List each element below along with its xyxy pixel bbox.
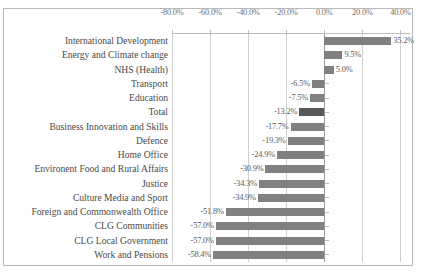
- row-tick-mark: [325, 254, 329, 255]
- bar-row: -17.7%: [172, 120, 410, 134]
- x-tick-label: -40.0%: [237, 8, 260, 17]
- category-label: Justice: [142, 177, 168, 191]
- x-axis-tick-labels: -80.0%-60.0%-40.0%-20.0%0.0%20.0%40.0%: [0, 8, 422, 22]
- category-label: Environent Food and Rural Affairs: [34, 162, 168, 176]
- category-label: NHS (Health): [114, 63, 168, 77]
- category-label: Education: [129, 91, 168, 105]
- row-tick-mark: [325, 212, 329, 213]
- category-axis-labels: International DevelopmentEnergy and Clim…: [0, 34, 168, 262]
- plot-area: 35.2%9.5%5.0%-6.5%-7.5%-13.2%-17.7%-19.3…: [172, 34, 410, 262]
- bar-value-label: -19.3%: [262, 135, 285, 147]
- row-tick-mark: [325, 183, 329, 184]
- bar: [265, 165, 324, 173]
- bar-row: -57.0%: [172, 234, 410, 248]
- x-tick-label: 20.0%: [352, 8, 373, 17]
- bar: [277, 151, 324, 159]
- row-tick-mark: [325, 98, 329, 99]
- row-tick-mark: [325, 197, 329, 198]
- bar-value-label: -7.5%: [289, 92, 308, 104]
- x-tick-label: -80.0%: [160, 8, 183, 17]
- bar: [310, 94, 324, 102]
- bar: [259, 180, 324, 188]
- row-tick-mark: [325, 240, 329, 241]
- category-label: Culture Media and Sport: [73, 191, 168, 205]
- bar-row: -34.3%: [172, 177, 410, 191]
- bar-row: -7.5%: [172, 91, 410, 105]
- category-label: CLG Communities: [95, 219, 168, 233]
- bar-row: -6.5%: [172, 77, 410, 91]
- bar: [216, 222, 325, 230]
- bar: [324, 37, 391, 45]
- x-tick-label: 0.0%: [316, 8, 333, 17]
- bar: [288, 137, 325, 145]
- bar: [226, 208, 325, 216]
- bar-row: -13.2%: [172, 105, 410, 119]
- row-tick-mark: [325, 169, 329, 170]
- category-label: Foreign and Commonwealth Office: [31, 205, 168, 219]
- bar-row: -34.9%: [172, 191, 410, 205]
- bar-value-label: -24.9%: [252, 149, 275, 161]
- bar-row: 9.5%: [172, 48, 410, 62]
- category-label: Defence: [136, 134, 168, 148]
- category-label: Home Office: [118, 148, 168, 162]
- bar: [312, 80, 324, 88]
- row-tick-mark: [325, 140, 329, 141]
- row-tick-mark: [325, 83, 329, 84]
- row-tick-mark: [325, 226, 329, 227]
- bar-row: -30.9%: [172, 162, 410, 176]
- category-label: Business Innovation and Skills: [49, 120, 168, 134]
- bar-value-label: -6.5%: [291, 78, 310, 90]
- bar: [258, 194, 324, 202]
- bar-value-label: -13.2%: [274, 106, 297, 118]
- category-label: Total: [148, 105, 168, 119]
- category-label: CLG Local Government: [74, 234, 168, 248]
- bar: [291, 123, 325, 131]
- row-tick-mark: [325, 155, 329, 156]
- bar-row: -51.8%: [172, 205, 410, 219]
- bar: [213, 251, 324, 259]
- category-label: Energy and Climate change: [62, 48, 168, 62]
- bar-row: -19.3%: [172, 134, 410, 148]
- category-label: Work and Pensions: [94, 248, 168, 262]
- bar: [299, 108, 324, 116]
- bar-value-label: -17.7%: [265, 121, 288, 133]
- bar-value-label: -51.8%: [200, 206, 223, 218]
- category-label: International Development: [65, 34, 168, 48]
- bar-row: -58.4%: [172, 248, 410, 262]
- row-tick-mark: [325, 126, 329, 127]
- bar-value-label: 5.0%: [336, 64, 353, 76]
- bar: [216, 237, 325, 245]
- category-label: Transport: [131, 77, 168, 91]
- bar-value-label: -58.4%: [188, 249, 211, 261]
- bar-row: -57.0%: [172, 219, 410, 233]
- bar-value-label: -34.9%: [233, 192, 256, 204]
- bar-value-label: -30.9%: [240, 163, 263, 175]
- bar-row: -24.9%: [172, 148, 410, 162]
- bar-value-label: -57.0%: [191, 235, 214, 247]
- bar: [324, 66, 334, 74]
- bar-row: 5.0%: [172, 63, 410, 77]
- bar-row: 35.2%: [172, 34, 410, 48]
- bar-value-label: 35.2%: [393, 35, 414, 47]
- bar-value-label: -57.0%: [191, 220, 214, 232]
- x-tick-label: 40.0%: [390, 8, 411, 17]
- row-tick-mark: [325, 112, 329, 113]
- bar-value-label: 9.5%: [344, 49, 361, 61]
- bar: [324, 51, 342, 59]
- x-tick-label: -20.0%: [275, 8, 298, 17]
- bar-value-label: -34.3%: [234, 178, 257, 190]
- x-tick-label: -60.0%: [198, 8, 221, 17]
